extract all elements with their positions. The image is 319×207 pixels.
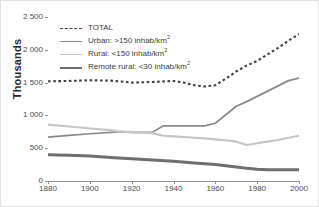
x-tick-label: 1940: [154, 184, 194, 193]
legend-label: Urban: >150 inhab/km2: [88, 36, 170, 45]
x-tick-label: 1880: [28, 184, 68, 193]
x-tick-label: 1920: [112, 184, 152, 193]
legend-item-total[interactable]: TOTAL: [60, 21, 190, 34]
x-axis-line: [48, 181, 299, 182]
chart-legend: TOTALUrban: >150 inhab/km2Rural: <150 in…: [60, 21, 190, 73]
y-tick-label: 2 500: [1, 12, 43, 21]
chart-figure: Thousands 05001 0001 5002 0002 500 18801…: [0, 0, 319, 207]
y-tick-label: 500: [1, 143, 43, 152]
x-tick-label: 2000: [279, 184, 319, 193]
legend-item-urban[interactable]: Urban: >150 inhab/km2: [60, 34, 190, 47]
legend-item-rural[interactable]: Rural: <150 inhab/km2: [60, 47, 190, 60]
legend-label: Remote rural: <30 inhab/km2: [88, 62, 190, 71]
x-tick-label: 1900: [70, 184, 110, 193]
legend-swatch-icon: [60, 62, 82, 71]
y-tick-label: 1 000: [1, 110, 43, 119]
legend-label: TOTAL: [88, 23, 113, 32]
y-axis-title: Thousands: [11, 19, 27, 119]
legend-item-remote-rural[interactable]: Remote rural: <30 inhab/km2: [60, 60, 190, 73]
series-line-remote-rural: [48, 155, 299, 170]
y-tick-label: 1 500: [1, 78, 43, 87]
legend-swatch-icon: [60, 36, 82, 45]
y-tick-label: 2 000: [1, 45, 43, 54]
legend-swatch-icon: [60, 23, 82, 32]
legend-swatch-icon: [60, 49, 82, 58]
legend-label: Rural: <150 inhab/km2: [88, 49, 167, 58]
x-tick-label: 1960: [195, 184, 235, 193]
x-tick-label: 1980: [237, 184, 277, 193]
